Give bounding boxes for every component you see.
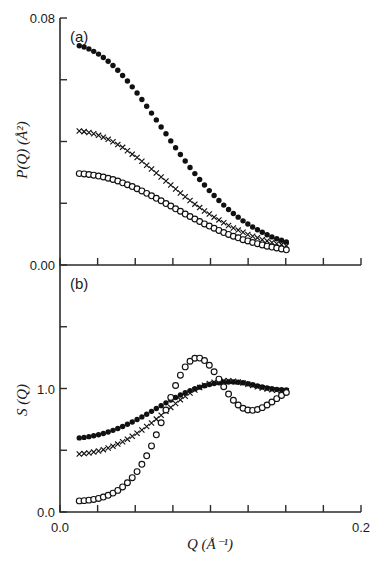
data-point	[207, 382, 212, 387]
panel-b-y-axis-title: S (Q)	[14, 384, 31, 416]
data-point	[216, 217, 221, 222]
data-point	[235, 214, 240, 219]
data-point	[183, 158, 188, 163]
data-point	[120, 484, 126, 490]
data-point	[144, 411, 149, 416]
data-point	[96, 448, 101, 453]
data-point	[283, 390, 289, 396]
data-point	[231, 225, 236, 230]
data-point	[130, 84, 135, 89]
data-point	[96, 432, 101, 437]
data-point	[144, 104, 149, 109]
data-point	[139, 97, 144, 102]
data-point	[105, 59, 110, 64]
data-point	[86, 450, 91, 455]
panel-b: 0.0 1.0 (b) S (Q)	[14, 265, 361, 520]
data-point	[168, 394, 174, 400]
data-point	[139, 427, 144, 432]
data-point	[86, 130, 91, 135]
data-point	[260, 230, 265, 235]
panel-b-ytick-label-mid: 1.0	[37, 382, 55, 397]
data-point	[81, 44, 86, 49]
data-point	[240, 218, 245, 223]
data-point	[240, 230, 245, 235]
panel-b-x-ticks	[60, 505, 361, 512]
data-point	[110, 444, 115, 449]
data-point	[120, 439, 125, 444]
data-point	[255, 227, 260, 232]
data-point	[159, 413, 164, 418]
data-point	[202, 208, 207, 213]
data-point	[149, 443, 155, 449]
data-point	[178, 372, 184, 378]
data-point	[106, 137, 111, 142]
data-point	[101, 431, 106, 436]
data-point	[130, 152, 135, 157]
data-point	[283, 247, 289, 253]
data-point	[91, 450, 96, 455]
data-point	[197, 177, 202, 182]
x-axis-tick-label-min: 0.0	[51, 520, 69, 535]
data-point	[158, 420, 164, 426]
data-point	[197, 205, 202, 210]
data-point	[250, 234, 255, 239]
data-point	[120, 424, 125, 429]
data-point	[86, 46, 91, 51]
data-point	[125, 78, 130, 83]
panel-a-x-ticks	[60, 258, 361, 265]
data-point	[236, 228, 241, 233]
data-point	[120, 73, 125, 78]
data-point	[226, 391, 232, 397]
data-point	[158, 403, 163, 408]
panel-b-ytick-label-min: 0.0	[37, 505, 55, 520]
data-point	[139, 414, 144, 419]
data-point	[183, 194, 188, 199]
data-point	[182, 364, 188, 370]
data-point	[168, 138, 173, 143]
data-point	[207, 211, 212, 216]
data-point	[149, 409, 154, 414]
figure-container: 0.08 0.00 (a) P(Q) (Å²) 0.0 1.0 (b) S (Q…	[0, 0, 385, 561]
data-point	[139, 461, 145, 467]
data-point	[163, 131, 168, 136]
data-point	[231, 211, 236, 216]
panel-a: 0.08 0.00 (a) P(Q) (Å²)	[14, 11, 361, 273]
data-point	[125, 437, 130, 442]
data-point	[264, 385, 269, 390]
data-point	[115, 142, 120, 147]
data-point	[144, 453, 150, 459]
data-point	[255, 235, 260, 240]
data-point	[134, 417, 139, 422]
data-point	[158, 124, 163, 129]
data-point	[187, 198, 192, 203]
data-point	[230, 397, 236, 403]
data-point	[178, 190, 183, 195]
data-point	[163, 400, 168, 405]
data-point	[206, 362, 212, 368]
data-point	[212, 215, 217, 220]
data-point	[216, 198, 221, 203]
data-point	[120, 145, 125, 150]
data-point	[110, 428, 115, 433]
data-point	[86, 434, 91, 439]
data-point	[149, 110, 154, 115]
series-open-circles	[76, 171, 289, 253]
data-point	[115, 426, 120, 431]
data-point	[96, 51, 101, 56]
panel-b-label: (b)	[70, 275, 88, 292]
data-point	[216, 376, 222, 382]
panel-b-axis-lines	[60, 265, 361, 512]
data-point	[91, 131, 96, 136]
panel-b-axes	[60, 265, 361, 512]
data-point	[77, 43, 82, 48]
data-point	[110, 139, 115, 144]
data-point	[154, 417, 159, 422]
data-point	[81, 451, 86, 456]
data-point	[178, 152, 183, 157]
data-point	[187, 165, 192, 170]
x-axis-tick-label-max: 0.2	[352, 520, 370, 535]
data-point	[115, 67, 120, 72]
data-point	[125, 148, 130, 153]
panel-a-y-ticks	[60, 18, 67, 265]
data-point	[134, 469, 140, 475]
